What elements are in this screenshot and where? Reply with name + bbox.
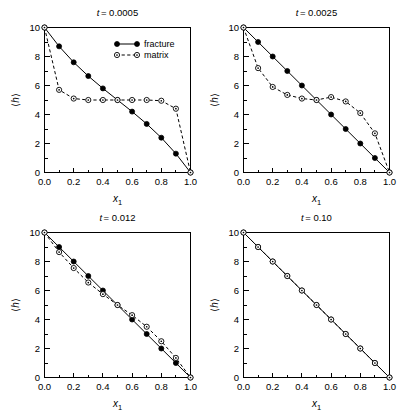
data-point-open-center bbox=[160, 100, 162, 102]
y-tick-label: 8 bbox=[234, 256, 239, 267]
data-point-filled bbox=[299, 83, 304, 88]
x-tick-label: 0.4 bbox=[295, 381, 308, 392]
legend-label: fracture bbox=[144, 39, 175, 49]
chart-panel-t-0.0005: t= 0.00050.00.20.40.60.81.00246810x1⟨h⟩f… bbox=[0, 0, 199, 205]
data-point-open-center bbox=[374, 362, 376, 364]
data-point-open-center bbox=[73, 267, 75, 269]
data-point-filled bbox=[159, 346, 164, 351]
y-tick-label: 10 bbox=[29, 22, 40, 33]
x-tick-label: 1.0 bbox=[184, 176, 197, 187]
data-point-filled bbox=[71, 60, 76, 65]
y-tick-label: 6 bbox=[35, 80, 40, 91]
legend-marker-filled bbox=[115, 42, 120, 47]
legend-item-matrix: matrix bbox=[114, 50, 169, 60]
data-point-open-center bbox=[44, 27, 46, 29]
y-tick-label: 10 bbox=[228, 227, 239, 238]
data-point-open-center bbox=[389, 377, 391, 379]
data-point-filled bbox=[100, 86, 105, 91]
data-point-filled bbox=[285, 69, 290, 74]
data-point-filled bbox=[270, 54, 275, 59]
x-tick-label: 0.8 bbox=[354, 381, 367, 392]
y-tick-label: 10 bbox=[228, 22, 239, 33]
y-tick-label: 2 bbox=[234, 138, 239, 149]
y-tick-label: 6 bbox=[234, 285, 239, 296]
x-axis-label: x1 bbox=[112, 398, 122, 411]
data-point-open-center bbox=[272, 261, 274, 263]
legend-item-fracture: fracture bbox=[115, 39, 175, 49]
data-point-open-center bbox=[359, 112, 361, 114]
y-tick-label: 0 bbox=[234, 167, 239, 178]
data-point-open-center bbox=[257, 67, 259, 69]
data-point-open-center bbox=[243, 232, 245, 234]
data-point-open-center bbox=[102, 99, 104, 101]
x-tick-label: 0.8 bbox=[354, 176, 367, 187]
data-point-open-center bbox=[146, 326, 148, 328]
data-point-filled bbox=[86, 74, 91, 79]
panel-title: t= 0.0005 bbox=[97, 7, 138, 18]
y-tick-label: 4 bbox=[234, 314, 239, 325]
data-point-open-center bbox=[146, 99, 148, 101]
data-point-open-center bbox=[330, 319, 332, 321]
y-axis-ticks: 0246810 bbox=[228, 22, 248, 178]
y-tick-label: 2 bbox=[35, 343, 40, 354]
data-point-open-center bbox=[243, 27, 245, 29]
data-point-filled bbox=[57, 245, 62, 250]
x-tick-label: 0.4 bbox=[96, 176, 109, 187]
y-tick-label: 6 bbox=[234, 80, 239, 91]
chart-panel-t-0.012: t= 0.0120.00.20.40.60.81.00246810x1⟨h⟩ bbox=[0, 205, 199, 410]
x-axis-label: x1 bbox=[311, 398, 321, 411]
y-tick-label: 8 bbox=[35, 51, 40, 62]
x-axis-ticks: 0.00.20.40.60.81.0 bbox=[38, 168, 197, 188]
legend-marker-open-center bbox=[116, 54, 118, 56]
data-point-open-center bbox=[44, 232, 46, 234]
y-axis-label: ⟨h⟩ bbox=[10, 93, 21, 107]
x-tick-label: 0.6 bbox=[125, 381, 138, 392]
data-point-filled bbox=[329, 112, 334, 117]
x-tick-label: 0.8 bbox=[155, 176, 168, 187]
data-point-open-center bbox=[102, 293, 104, 295]
data-point-open-center bbox=[345, 333, 347, 335]
data-point-filled bbox=[71, 259, 76, 264]
data-point-filled bbox=[86, 274, 91, 279]
x-tick-label: 0.6 bbox=[324, 176, 337, 187]
x-tick-label: 1.0 bbox=[383, 381, 396, 392]
data-point-open-center bbox=[58, 89, 60, 91]
y-tick-label: 2 bbox=[35, 138, 40, 149]
data-point-open-center bbox=[117, 304, 119, 306]
x-tick-label: 0.4 bbox=[96, 381, 109, 392]
data-point-open-center bbox=[58, 251, 60, 253]
y-tick-label: 8 bbox=[35, 256, 40, 267]
x-axis-ticks: 0.00.20.40.60.81.0 bbox=[237, 373, 396, 393]
x-axis-ticks: 0.00.20.40.60.81.0 bbox=[237, 168, 396, 188]
data-point-filled bbox=[130, 109, 135, 114]
y-axis-label: ⟨h⟩ bbox=[209, 93, 220, 107]
panel-title: t= 0.10 bbox=[301, 212, 332, 223]
panel-title: t= 0.012 bbox=[99, 212, 135, 223]
data-point-open-center bbox=[257, 246, 259, 248]
x-tick-label: 0.2 bbox=[266, 176, 279, 187]
x-axis-label: x1 bbox=[311, 193, 321, 207]
legend-marker-open-center bbox=[136, 54, 138, 56]
data-point-filled bbox=[144, 332, 149, 337]
plot-svg: t= 0.0120.00.20.40.60.81.00246810x1⟨h⟩ bbox=[0, 205, 199, 411]
x-tick-label: 0.6 bbox=[324, 381, 337, 392]
data-point-filled bbox=[358, 141, 363, 146]
data-point-open-center bbox=[316, 304, 318, 306]
data-point-open-center bbox=[160, 340, 162, 342]
data-point-open-center bbox=[175, 108, 177, 110]
multi-panel-figure: t= 0.00050.00.20.40.60.81.00246810x1⟨h⟩f… bbox=[0, 0, 398, 411]
y-tick-label: 10 bbox=[29, 227, 40, 238]
y-tick-label: 8 bbox=[234, 51, 239, 62]
data-point-open-center bbox=[131, 99, 133, 101]
data-point-open-center bbox=[316, 99, 318, 101]
y-tick-label: 4 bbox=[35, 314, 40, 325]
data-point-open-center bbox=[87, 282, 89, 284]
data-point-filled bbox=[173, 361, 178, 366]
data-point-open-center bbox=[389, 172, 391, 174]
data-point-open-center bbox=[117, 99, 119, 101]
plot-svg: t= 0.00050.00.20.40.60.81.00246810x1⟨h⟩f… bbox=[0, 0, 199, 206]
legend-label: matrix bbox=[144, 50, 169, 60]
x-tick-label: 0.4 bbox=[295, 176, 308, 187]
y-axis-ticks: 0246810 bbox=[29, 227, 49, 383]
data-point-open-center bbox=[330, 96, 332, 98]
